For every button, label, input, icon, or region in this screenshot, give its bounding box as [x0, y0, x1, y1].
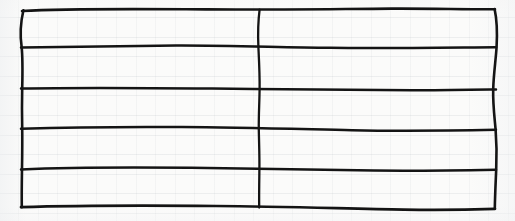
- hand-drawn-table: [0, 0, 515, 221]
- table-border-bottom: [21, 206, 495, 210]
- table-border-left: [21, 10, 24, 207]
- table-column-divider: [258, 10, 260, 208]
- table-sketch-svg: [0, 0, 515, 221]
- table-border-right: [493, 9, 497, 208]
- sketch-canvas: [0, 0, 515, 221]
